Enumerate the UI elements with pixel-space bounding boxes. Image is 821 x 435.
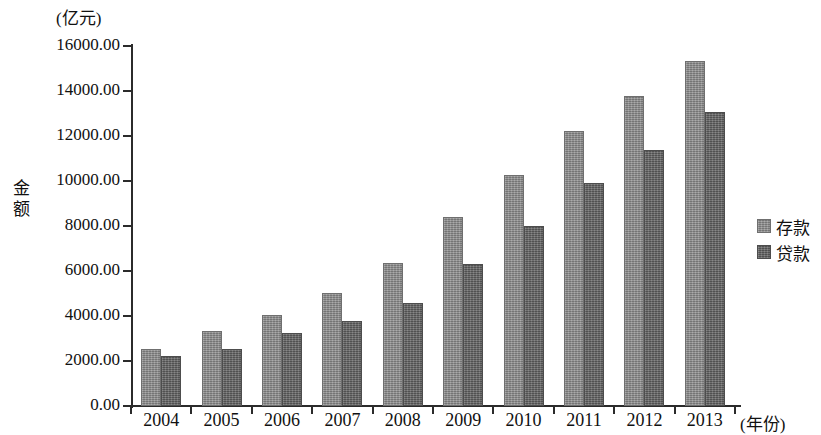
- bar-存款-2010: [504, 175, 524, 406]
- y-axis-tick-label: 14000.00: [14, 80, 120, 100]
- bar-贷款-2008: [403, 303, 423, 406]
- bar-存款-2009: [443, 217, 463, 406]
- legend-swatch-icon: [757, 219, 771, 233]
- x-axis-tick-label: 2005: [192, 410, 252, 431]
- bar-贷款-2004: [161, 356, 181, 406]
- y-axis-tick-label: 0.00: [14, 395, 120, 415]
- legend-label: 存款: [776, 214, 810, 239]
- x-axis-title: (年份): [740, 410, 785, 435]
- chart-legend: 存款贷款: [757, 213, 810, 265]
- legend-item-贷款: 贷款: [757, 239, 810, 265]
- x-axis-tick-label: 2013: [675, 410, 735, 431]
- y-axis-tick-label: 4000.00: [14, 305, 120, 325]
- bar-存款-2012: [624, 96, 644, 406]
- y-axis-unit-label: (亿元): [56, 4, 101, 29]
- y-axis-tick-label: 6000.00: [14, 260, 120, 280]
- y-axis-tick-label: 16000.00: [14, 35, 120, 55]
- x-axis-tick-label: 2007: [312, 410, 372, 431]
- x-axis-tick-label: 2008: [373, 410, 433, 431]
- legend-item-存款: 存款: [757, 213, 810, 239]
- bar-存款-2013: [685, 61, 705, 406]
- bar-存款-2004: [141, 349, 161, 406]
- bar-存款-2008: [383, 263, 403, 406]
- bar-贷款-2007: [342, 321, 362, 407]
- legend-label: 贷款: [776, 240, 810, 265]
- y-axis-tick-label: 10000.00: [14, 170, 120, 190]
- plot-area: [131, 46, 735, 406]
- bar-贷款-2013: [705, 112, 725, 406]
- bar-贷款-2009: [463, 264, 483, 406]
- x-axis-tick-label: 2004: [131, 410, 191, 431]
- x-axis-tick-label: 2011: [554, 410, 614, 431]
- bar-贷款-2012: [644, 150, 664, 407]
- bar-贷款-2011: [584, 183, 604, 406]
- x-axis-tick-label: 2006: [252, 410, 312, 431]
- x-axis-tick-label: 2012: [614, 410, 674, 431]
- bar-贷款-2006: [282, 333, 302, 406]
- x-axis-tick-label: 2009: [433, 410, 493, 431]
- legend-swatch-icon: [757, 245, 771, 259]
- y-axis-tick-label: 2000.00: [14, 350, 120, 370]
- bar-贷款-2005: [222, 349, 242, 406]
- y-axis-tick-label: 12000.00: [14, 125, 120, 145]
- y-axis-tick-label: 8000.00: [14, 215, 120, 235]
- bar-存款-2007: [322, 293, 342, 406]
- bar-存款-2005: [202, 331, 222, 406]
- x-axis-tick-label: 2010: [494, 410, 554, 431]
- bar-贷款-2010: [524, 226, 544, 406]
- bar-存款-2006: [262, 315, 282, 406]
- bar-存款-2011: [564, 131, 584, 406]
